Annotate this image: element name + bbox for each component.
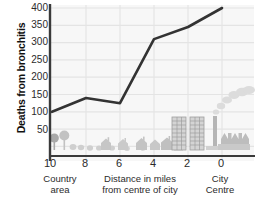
x-tick-4: 4: [142, 157, 164, 169]
city-centre-label: City Centre: [196, 173, 244, 195]
city-centre-line1: City: [196, 173, 244, 184]
city-centre-line2: Centre: [196, 184, 244, 195]
bronchitis-deaths-chart: Deaths from bronchitis 400 350 300 250 2…: [0, 0, 256, 207]
x-tick-8: 8: [74, 157, 96, 169]
x-axis-title-line1: Distance in miles: [95, 173, 185, 184]
x-axis-tick-labels: 10 8 6 4 2 0: [0, 157, 256, 171]
country-area-line2: area: [34, 184, 86, 195]
x-tick-10: 10: [39, 157, 61, 169]
country-area-label: Country area: [34, 173, 86, 195]
x-tick-6: 6: [108, 157, 130, 169]
x-axis-title: Distance in miles from centre of city: [95, 173, 185, 195]
tower-block-icon: [172, 117, 186, 150]
x-axis-title-line2: from centre of city: [95, 184, 185, 195]
x-tick-0: 0: [210, 157, 232, 169]
tower-block-icon: [190, 117, 204, 150]
x-tick-2: 2: [176, 157, 198, 169]
country-area-line1: Country: [34, 173, 86, 184]
